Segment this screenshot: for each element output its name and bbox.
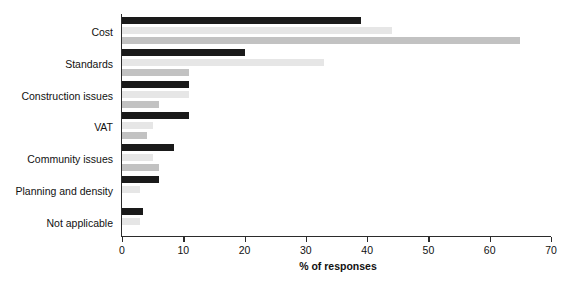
x-tick-label: 70 (536, 244, 566, 256)
x-tick-label: 40 (352, 244, 382, 256)
bar (122, 122, 153, 129)
bar (122, 186, 140, 193)
bar-chart: CostStandardsConstruction issuesVATCommu… (0, 0, 576, 283)
x-tick-mark (367, 237, 368, 242)
category-label: Not applicable (0, 217, 113, 229)
bar (122, 37, 520, 44)
category-row: Community issues (0, 144, 576, 174)
category-label: Planning and density (0, 185, 113, 197)
x-tick-mark (306, 237, 307, 242)
x-tick-label: 50 (413, 244, 443, 256)
category-row: Not applicable (0, 208, 576, 238)
bar (122, 144, 174, 151)
category-row: VAT (0, 112, 576, 142)
bar (122, 154, 153, 161)
bar (122, 91, 189, 98)
bar (122, 27, 392, 34)
x-tick-label: 0 (107, 244, 137, 256)
bar (122, 49, 245, 56)
category-row: Cost (0, 17, 576, 47)
bar (122, 69, 189, 76)
category-row: Construction issues (0, 81, 576, 111)
category-label: Community issues (0, 153, 113, 165)
bar (122, 218, 140, 225)
bar (122, 112, 189, 119)
category-label: Standards (0, 58, 113, 70)
bar (122, 176, 159, 183)
x-tick-mark (551, 237, 552, 242)
bar (122, 208, 143, 215)
bar (122, 164, 159, 171)
category-label: Cost (0, 26, 113, 38)
x-axis-title: % of responses (0, 260, 576, 272)
bar (122, 81, 189, 88)
category-label: VAT (0, 121, 113, 133)
x-tick-mark (183, 237, 184, 242)
bar (122, 17, 361, 24)
bar (122, 132, 147, 139)
category-row: Standards (0, 49, 576, 79)
x-tick-label: 60 (475, 244, 505, 256)
x-tick-mark (245, 237, 246, 242)
x-tick-mark (428, 237, 429, 242)
x-tick-label: 10 (168, 244, 198, 256)
category-row: Planning and density (0, 176, 576, 206)
bar (122, 101, 159, 108)
x-tick-label: 20 (230, 244, 260, 256)
x-tick-label: 30 (291, 244, 321, 256)
x-tick-mark (122, 237, 123, 242)
category-label: Construction issues (0, 90, 113, 102)
bar (122, 59, 324, 66)
x-tick-mark (490, 237, 491, 242)
